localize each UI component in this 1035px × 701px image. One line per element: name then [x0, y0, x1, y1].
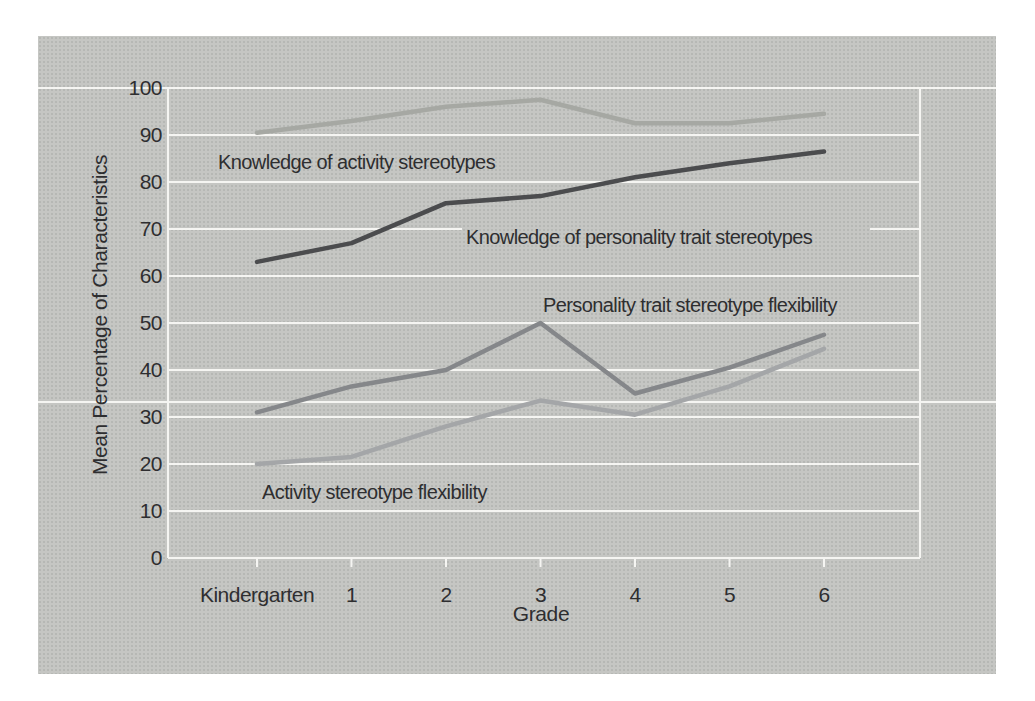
y-tick-label: 40	[92, 358, 162, 382]
x-tick-label: 6	[739, 583, 909, 607]
y-tick-label: 90	[92, 123, 162, 147]
y-tick-label: 100	[92, 76, 162, 100]
y-tick-label: 60	[92, 264, 162, 288]
y-tick-label: 80	[92, 170, 162, 194]
series-label-personality-flexibility: Personality trait stereotype flexibility	[543, 293, 837, 317]
y-tick-label: 70	[92, 217, 162, 241]
y-tick-label: 20	[92, 452, 162, 476]
y-tick-label: 0	[92, 546, 162, 570]
figure-page: Mean Percentage of Characteristics Grade…	[0, 0, 1035, 701]
series-line-1	[257, 100, 824, 133]
series-label-knowledge-activity: Knowledge of activity stereotypes	[218, 150, 495, 174]
series-label-activity-flexibility: Activity stereotype flexibility	[262, 480, 487, 504]
y-tick-label: 10	[92, 499, 162, 523]
series-label-knowledge-personality: Knowledge of personality trait stereotyp…	[466, 225, 812, 249]
y-tick-label: 50	[92, 311, 162, 335]
line-chart	[38, 36, 996, 674]
chart-panel: Mean Percentage of Characteristics Grade…	[38, 36, 996, 674]
y-tick-label: 30	[92, 405, 162, 429]
